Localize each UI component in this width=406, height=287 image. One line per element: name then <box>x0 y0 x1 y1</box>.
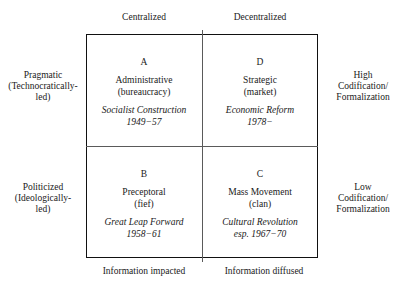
axis-label-high-codification-line3: Formalization <box>322 92 404 103</box>
axis-label-information-diffused: Information diffused <box>200 266 328 277</box>
quadrant-b-letter: B <box>89 168 199 180</box>
axis-label-politicized: Politicized (Ideologically- led) <box>2 182 84 216</box>
axis-label-politicized-line2: (Ideologically- <box>2 193 84 204</box>
axis-label-pragmatic: Pragmatic (Technocratically- led) <box>2 70 84 104</box>
axis-label-politicized-line3: led) <box>2 204 84 215</box>
quadrant-a: A Administrative (bureaucracy) Socialist… <box>86 56 202 128</box>
axis-label-high-codification: High Codification/ Formalization <box>322 70 404 104</box>
quadrant-c-years: esp. 1967−70 <box>205 229 315 241</box>
quadrant-d-event: Economic Reform <box>205 105 315 117</box>
axis-label-pragmatic-line3: led) <box>2 92 84 103</box>
quadrant-a-years: 1949−57 <box>89 117 199 129</box>
axis-label-low-codification-line3: Formalization <box>322 204 404 215</box>
quadrant-a-event: Socialist Construction <box>89 105 199 117</box>
quadrant-c-paren: (clan) <box>205 199 315 211</box>
axis-label-low-codification-line1: Low <box>322 182 404 193</box>
axis-label-politicized-line1: Politicized <box>2 182 84 193</box>
axis-label-information-impacted: Information impacted <box>80 266 208 277</box>
quadrant-b: B Preceptoral (fief) Great Leap Forward … <box>86 168 202 240</box>
quadrant-d: D Strategic (market) Economic Reform 197… <box>202 56 318 128</box>
matrix-horizontal-divider <box>86 146 318 147</box>
axis-label-pragmatic-line1: Pragmatic <box>2 70 84 81</box>
quadrant-b-paren: (fief) <box>89 199 199 211</box>
quadrant-d-years: 1978− <box>205 117 315 129</box>
quadrant-b-name: Preceptoral <box>89 187 199 199</box>
quadrant-d-letter: D <box>205 56 315 68</box>
quadrant-a-paren: (bureaucracy) <box>89 87 199 99</box>
quadrant-d-name: Strategic <box>205 75 315 87</box>
quadrant-b-event: Great Leap Forward <box>89 217 199 229</box>
quadrant-d-paren: (market) <box>205 87 315 99</box>
quadrant-a-name: Administrative <box>89 75 199 87</box>
axis-label-pragmatic-line2: (Technocratically- <box>2 81 84 92</box>
quadrant-b-years: 1958−61 <box>89 229 199 241</box>
quadrant-c: C Mass Movement (clan) Cultural Revoluti… <box>202 168 318 240</box>
axis-label-high-codification-line2: Codification/ <box>322 81 404 92</box>
quadrant-a-letter: A <box>89 56 199 68</box>
axis-label-decentralized: Decentralized <box>202 12 318 23</box>
axis-label-low-codification-line2: Codification/ <box>322 193 404 204</box>
axis-label-low-codification: Low Codification/ Formalization <box>322 182 404 216</box>
axis-label-centralized: Centralized <box>86 12 202 23</box>
quadrant-c-letter: C <box>205 168 315 180</box>
two-by-two-matrix-figure: Centralized Decentralized Pragmatic (Tec… <box>0 0 406 287</box>
quadrant-c-name: Mass Movement <box>205 187 315 199</box>
axis-label-high-codification-line1: High <box>322 70 404 81</box>
quadrant-c-event: Cultural Revolution <box>205 217 315 229</box>
